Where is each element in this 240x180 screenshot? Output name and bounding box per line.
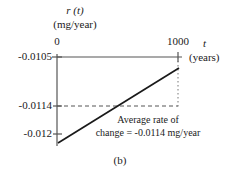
figure-caption: (b): [0, 155, 240, 166]
annotation-line-1: Average rate of: [63, 113, 233, 126]
plot-area: [0, 0, 240, 180]
annotation-line-2: change = -0.0114 mg/year: [63, 126, 233, 139]
annotation-text: Average rate of change = -0.0114 mg/year: [63, 113, 233, 139]
figure-panel-b: r (t) (mg/year) 0 -0.0105 -0.0114 -0.012…: [0, 0, 240, 180]
